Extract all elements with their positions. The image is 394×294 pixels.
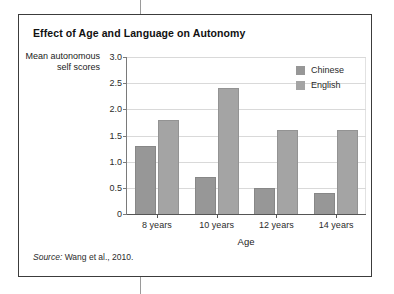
chart-title: Effect of Age and Language on Autonomy [33,27,245,39]
x-axis-tick-label: 10 years [199,220,234,230]
y-axis-tick-label: 1.0 [109,157,122,167]
legend-item-english[interactable]: English [296,80,344,90]
source-label: Source: [33,252,62,262]
y-axis-tick-label: 2.5 [109,78,122,88]
x-axis-tick-mark [157,214,158,218]
legend-swatch-icon [296,66,305,75]
bar-group: 10 years [187,57,247,214]
bar-english-10-years[interactable] [218,88,239,214]
y-axis-tick-label: 1.5 [109,131,122,141]
bar-english-12-years[interactable] [277,130,298,214]
bar-chinese-12-years[interactable] [254,188,275,214]
legend-label: English [311,80,341,90]
y-axis-tick-label: 3.0 [109,52,122,62]
x-axis-tick-mark [276,214,277,218]
bar-chinese-10-years[interactable] [195,177,216,214]
x-axis-tick-label: 14 years [319,220,354,230]
source-note: Source: Wang et al., 2010. [33,252,133,262]
legend-item-chinese[interactable]: Chinese [296,65,344,75]
y-axis-tick-label: 0.5 [109,183,122,193]
x-axis-tick-label: 8 years [142,220,172,230]
y-axis-tick-mark [123,214,127,215]
bar-group: 8 years [127,57,187,214]
figure-container: Effect of Age and Language on Autonomy M… [18,14,372,277]
plot-wrapper: Mean autonomous self scores 00.51.01.52.… [126,57,366,215]
bar-chinese-8-years[interactable] [135,146,156,214]
x-axis-tick-mark [336,214,337,218]
legend-label: Chinese [311,65,344,75]
legend-swatch-icon [296,81,305,90]
x-axis-label: Age [126,236,366,247]
bar-chinese-14-years[interactable] [314,193,335,214]
y-axis-label: Mean autonomous self scores [22,51,100,73]
bar-english-14-years[interactable] [337,130,358,214]
x-axis-tick-label: 12 years [259,220,294,230]
bar-english-8-years[interactable] [158,120,179,214]
x-axis-tick-mark [217,214,218,218]
source-value: Wang et al., 2010. [62,252,133,262]
y-axis-tick-label: 2.0 [109,104,122,114]
y-axis-tick-label: 0 [117,209,122,219]
chart-legend: Chinese English [296,65,344,95]
